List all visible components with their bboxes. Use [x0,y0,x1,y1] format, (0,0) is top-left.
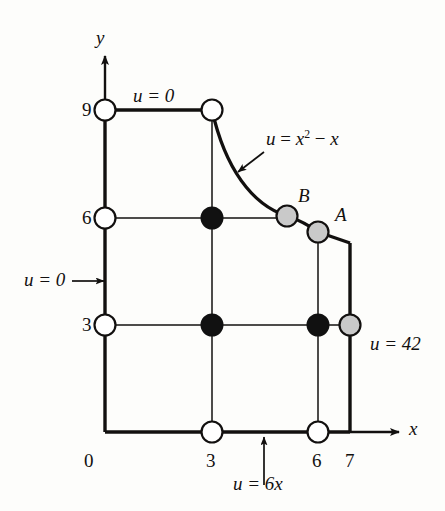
y-tick-label-6: 6 [82,208,92,227]
y-tick-label-9: 9 [82,100,92,119]
curve-label-x2: x [330,128,338,149]
curve-label-x: x [296,128,304,149]
node-filled-3-6 [202,208,223,229]
node-open-6-0 [308,422,329,443]
x-tick-label-6: 6 [312,451,322,470]
node-filled-6-3 [308,315,329,336]
node-gray-a [308,222,329,243]
y-tick-label-3: 3 [82,315,92,334]
curve-boundary-condition-label: u = x2 − x [266,129,339,148]
node-gray-7-3 [340,315,361,336]
node-open-3-0 [202,422,223,443]
x-tick-label-7: 7 [345,451,355,470]
figure-canvas [0,0,445,511]
curve-label-minus: − [310,128,330,149]
node-open-3-9 [202,100,223,121]
x-tick-label-3: 3 [206,451,216,470]
curve-label-equals: = [276,128,296,149]
curve-bc-leader [238,152,264,172]
node-gray-b [277,206,298,227]
point-label-a: A [335,205,347,224]
bottom-boundary-condition-label: u = 6x [233,474,283,493]
right-boundary-condition-label: u = 42 [370,334,421,353]
node-filled-3-3 [202,315,223,336]
x-axis-label: x [409,419,417,438]
node-open-0-9 [95,100,116,121]
top-boundary-condition-label: u = 0 [133,86,174,105]
curve-label-lhs: u [266,128,276,149]
finite-difference-grid-figure: y x 9 6 3 0 3 6 7 u = 0 u = 0 u = 6x u =… [0,0,445,511]
node-open-0-6 [95,208,116,229]
origin-label: 0 [84,451,94,470]
point-label-b: B [298,186,310,205]
left-boundary-condition-label: u = 0 [24,270,65,289]
y-axis-label: y [96,28,104,47]
node-open-0-3 [95,315,116,336]
